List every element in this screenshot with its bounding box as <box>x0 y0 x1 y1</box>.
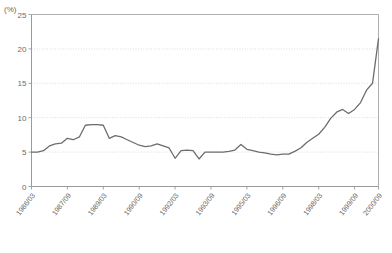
svg-text:1996/09: 1996/09 <box>265 191 288 217</box>
grid-lines <box>32 49 379 152</box>
svg-text:10: 10 <box>18 114 27 123</box>
plot-frame <box>32 15 379 187</box>
svg-text:1992/03: 1992/03 <box>158 191 181 217</box>
svg-text:1989/03: 1989/03 <box>86 191 109 217</box>
svg-text:1986/03: 1986/03 <box>14 191 37 217</box>
svg-text:1999/09: 1999/09 <box>337 191 360 217</box>
svg-text:1990/09: 1990/09 <box>122 191 145 217</box>
svg-text:0: 0 <box>22 183 27 192</box>
svg-text:2000/09: 2000/09 <box>361 191 384 217</box>
svg-text:20: 20 <box>18 45 27 54</box>
line-chart-plot: 0510152025 1986/031987/091989/031990/091… <box>0 0 392 253</box>
svg-text:1998/03: 1998/03 <box>301 191 324 217</box>
svg-text:25: 25 <box>18 11 27 20</box>
svg-text:1987/09: 1987/09 <box>50 191 73 217</box>
svg-text:15: 15 <box>18 79 27 88</box>
y-axis-tick-labels: 0510152025 <box>18 11 27 192</box>
chart-container: (%) 0510152025 1986/031987/091989/031990… <box>0 0 392 253</box>
x-axis-tick-labels: 1986/031987/091989/031990/091992/031993/… <box>14 191 384 217</box>
data-series-line <box>32 39 379 159</box>
svg-text:1993/09: 1993/09 <box>193 191 216 217</box>
svg-text:5: 5 <box>22 148 27 157</box>
svg-text:1995/03: 1995/03 <box>229 191 252 217</box>
